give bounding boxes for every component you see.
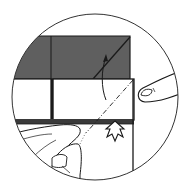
thumbnail <box>52 154 67 167</box>
paper-white-square-panel <box>53 79 134 120</box>
hand-shade <box>80 132 86 144</box>
origami-diagram <box>0 0 189 193</box>
paper-colored-side <box>0 36 130 79</box>
paper-white-left-panel <box>0 79 51 120</box>
inset-content <box>0 36 189 190</box>
right-finger <box>138 68 189 102</box>
